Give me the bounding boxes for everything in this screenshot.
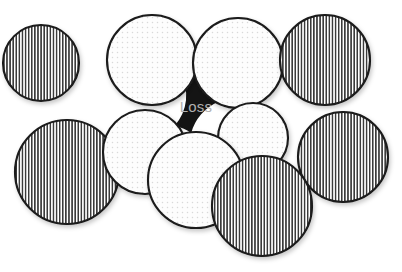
loss-label: Loss (180, 98, 213, 115)
circle-striped-mid-left (15, 120, 119, 224)
circle-dotted-top-left (107, 15, 197, 105)
circle-striped-bottom (212, 156, 312, 256)
circle-striped-mid-right (298, 112, 388, 202)
circle-striped-top-left (3, 25, 79, 101)
circle-packing-canvas: Loss (0, 0, 402, 272)
circle-striped-top-right (280, 15, 370, 105)
circle-dotted-top-right (193, 18, 283, 108)
figure-root: Loss (0, 0, 402, 272)
